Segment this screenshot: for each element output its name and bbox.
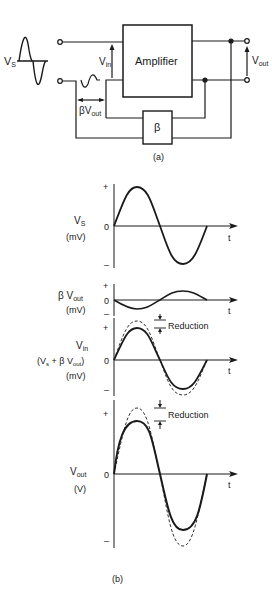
vin-arrow-icon	[110, 44, 115, 50]
svg-text:–: –	[104, 385, 109, 395]
svg-text:–: –	[104, 260, 109, 270]
svg-text:t: t	[228, 480, 231, 490]
vout-reduction-label: Reduction	[168, 410, 209, 420]
vout-plot-label: Vout	[70, 466, 86, 478]
input-terminal-bottom	[58, 79, 63, 84]
svg-text:0: 0	[104, 296, 109, 306]
vs-label: VS	[74, 215, 86, 227]
plot-vs	[114, 184, 238, 268]
plot-vout	[114, 400, 238, 548]
svg-text:(V): (V)	[74, 484, 86, 494]
beta-vout-label: β Vout	[58, 290, 83, 302]
feedback-label: βVout	[79, 105, 101, 117]
source-label: VS	[4, 55, 16, 68]
svg-text:0: 0	[104, 356, 109, 366]
svg-text:t: t	[228, 233, 231, 243]
vin-label: Vin	[99, 56, 111, 68]
svg-text:t: t	[228, 306, 231, 316]
beta-label: β	[154, 121, 160, 133]
vin-plot-label: Vin	[76, 340, 88, 352]
svg-text:–: –	[104, 536, 109, 546]
output-terminal-bottom	[245, 78, 250, 83]
svg-text:–: –	[104, 309, 109, 319]
source-sine-icon	[17, 37, 48, 84]
feedback-wave-icon	[81, 75, 100, 87]
svg-text:+: +	[103, 409, 108, 419]
vout-label: Vout	[252, 55, 268, 67]
vin-reduction-label: Reduction	[168, 321, 209, 331]
vout-arrow-icon	[245, 46, 250, 52]
block-diagram	[17, 25, 250, 144]
amplifier-label: Amplifier	[135, 55, 178, 67]
vin-formula: (Vs + β Vout)	[37, 356, 84, 367]
plot-beta-vout	[114, 284, 238, 316]
output-terminal-top	[245, 39, 250, 44]
svg-text:0: 0	[104, 222, 109, 232]
input-terminal-top	[58, 40, 63, 45]
svg-text:+: +	[103, 182, 108, 192]
caption-a: (a)	[153, 152, 164, 162]
svg-text:(mV): (mV)	[66, 305, 86, 315]
caption-b: (b)	[112, 574, 123, 584]
svg-text:+: +	[103, 281, 108, 291]
svg-text:(mV): (mV)	[66, 371, 86, 381]
svg-text:(mV): (mV)	[66, 232, 86, 242]
svg-text:t: t	[228, 366, 231, 376]
feedback-amplifier-figure: VS Vin Amplifier Vout βVout β (a) + 0 – …	[0, 0, 272, 593]
svg-text:0: 0	[104, 470, 109, 480]
svg-text:+: +	[103, 323, 108, 333]
